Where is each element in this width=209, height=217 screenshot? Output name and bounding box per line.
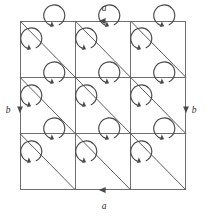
- circular-arrow-r1c0-upper-arc: [44, 62, 65, 83]
- circular-arrow-r1c0-lower-head: [27, 101, 31, 107]
- circular-arrow-r0c1-lower-arc: [76, 28, 97, 49]
- bottom-edge-label-marker: [99, 187, 106, 193]
- top-edge-label: a: [102, 3, 107, 13]
- circular-arrow-r0c1-upper-head: [105, 21, 109, 27]
- circular-arrow-r0c0-lower-arc: [21, 28, 42, 49]
- circular-arrow-r2c2-upper-arc: [154, 118, 175, 139]
- circular-arrows-group: [21, 5, 175, 163]
- circular-arrow-r2c2-lower-head: [137, 157, 141, 163]
- circular-arrow-r0c0-upper-arc: [44, 5, 65, 26]
- circular-arrow-r2c1-upper: [99, 118, 120, 140]
- circular-arrow-r1c0-upper: [44, 62, 65, 84]
- circular-arrow-r1c2-lower-head: [137, 101, 141, 107]
- torus-identification-diagram: a a b b: [0, 0, 209, 217]
- circular-arrow-r0c2-lower-head: [137, 44, 141, 50]
- circular-arrow-r1c2-upper: [154, 62, 175, 84]
- circular-arrow-r0c2-upper: [154, 5, 175, 27]
- bottom-edge-label: a: [102, 201, 107, 211]
- circular-arrow-r0c0-lower: [21, 28, 42, 50]
- right-edge-label: b: [192, 105, 197, 115]
- circular-arrow-r2c1-upper-arc: [99, 118, 120, 139]
- circular-arrow-r1c2-upper-head: [160, 78, 164, 84]
- diagonals-group: [20, 21, 186, 190]
- circular-arrow-r0c1-lower-head: [82, 44, 86, 50]
- circular-arrow-r2c0-lower-head: [27, 157, 31, 163]
- circular-arrow-r2c1-upper-head: [105, 134, 109, 140]
- circular-arrow-r0c2-lower-arc: [131, 28, 152, 49]
- circular-arrow-r0c0-upper: [44, 5, 65, 27]
- circular-arrow-r2c0-upper-head: [50, 134, 54, 140]
- circular-arrow-r2c0-lower-arc: [21, 141, 42, 162]
- left-edge-label-marker: [17, 106, 23, 113]
- circular-arrow-r1c1-upper-head: [105, 78, 109, 84]
- left-edge-label: b: [6, 105, 11, 115]
- circular-arrow-r0c0-lower-head: [27, 44, 31, 50]
- circular-arrow-r2c0-upper-arc: [44, 118, 65, 139]
- circular-arrow-r1c2-upper-arc: [154, 62, 175, 83]
- circular-arrow-r1c1-upper-arc: [99, 62, 120, 83]
- circular-arrow-r0c2-upper-arc: [154, 5, 175, 26]
- right-edge-label-marker: [183, 106, 189, 113]
- circular-arrow-r1c1-lower-head: [82, 101, 86, 107]
- circular-arrow-r2c2-upper: [154, 118, 175, 140]
- figure-root: a a b b: [0, 0, 209, 217]
- circular-arrow-r2c0-upper: [44, 118, 65, 140]
- circular-arrow-r1c0-upper-head: [50, 78, 54, 84]
- circular-arrow-r2c1-lower-head: [82, 157, 86, 163]
- circular-arrow-r2c2-upper-head: [160, 134, 164, 140]
- circular-arrow-r0c0-upper-head: [50, 21, 54, 27]
- circular-arrow-r1c1-upper: [99, 62, 120, 84]
- circular-arrow-r0c2-upper-head: [160, 21, 164, 27]
